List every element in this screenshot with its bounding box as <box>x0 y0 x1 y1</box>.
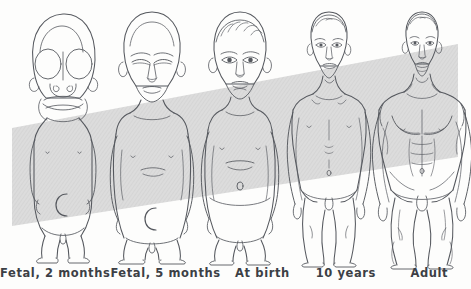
growth-proportions-plate: Fetal, 2 months Fetal, 5 months At birth… <box>0 0 471 289</box>
caption-fetal-2-months: Fetal, 2 months <box>0 262 110 289</box>
caption-row: Fetal, 2 months Fetal, 5 months At birth… <box>0 262 471 289</box>
caption-fetal-5-months: Fetal, 5 months <box>110 262 220 289</box>
caption-at-birth: At birth <box>221 262 304 289</box>
caption-ten-years: 10 years <box>304 262 387 289</box>
figure-illustration <box>0 0 471 289</box>
caption-adult: Adult <box>388 262 471 289</box>
